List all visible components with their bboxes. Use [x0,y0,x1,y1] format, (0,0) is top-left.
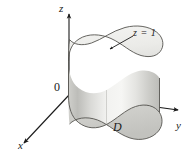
axis-label-z: z [59,3,63,14]
annotation-label-region-d: D [113,121,122,133]
x-axis-line [24,95,69,143]
origin-label: 0 [54,81,60,93]
math-figure: z 0 x y z = 1 D [0,0,195,160]
axis-label-x: x [18,140,23,151]
axis-label-y: y [176,120,181,131]
figure-canvas [0,0,195,160]
annotation-label-z-equals-1: z = 1 [133,28,156,38]
